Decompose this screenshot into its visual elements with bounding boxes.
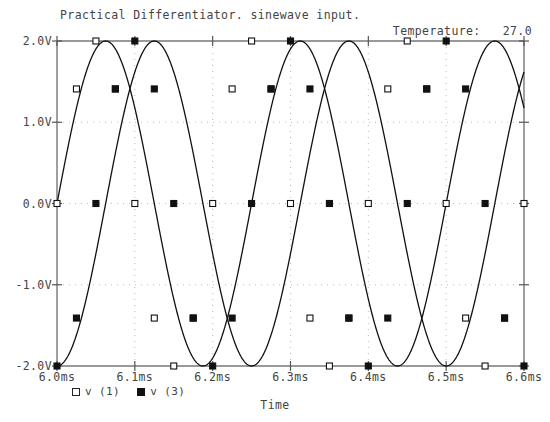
x-axis-caption: Time — [0, 398, 550, 412]
filled-square-icon — [137, 388, 145, 396]
data-point-marker — [482, 363, 488, 369]
data-point-marker — [365, 363, 371, 369]
legend-item[interactable]: v (3) — [137, 385, 185, 398]
data-point-marker — [190, 315, 196, 321]
legend: v (1)v (3) — [72, 385, 185, 398]
data-point-marker — [73, 315, 79, 321]
data-point-marker — [463, 86, 469, 92]
data-point-marker — [93, 38, 99, 44]
data-point-marker — [326, 363, 332, 369]
data-point-marker — [307, 315, 313, 321]
data-point-marker — [54, 363, 60, 369]
data-point-marker — [73, 86, 79, 92]
series-1 — [54, 38, 527, 369]
data-point-marker — [210, 363, 216, 369]
data-point-marker — [521, 363, 527, 369]
data-point-marker — [229, 315, 235, 321]
data-point-marker — [385, 315, 391, 321]
open-square-icon — [72, 388, 80, 396]
data-point-marker — [229, 86, 235, 92]
data-point-marker — [404, 38, 410, 44]
data-point-marker — [443, 38, 449, 44]
data-point-marker — [521, 201, 527, 207]
data-point-marker — [346, 315, 352, 321]
data-point-marker — [151, 315, 157, 321]
data-point-marker — [424, 86, 430, 92]
data-point-marker — [151, 86, 157, 92]
data-point-marker — [268, 86, 274, 92]
plot-canvas — [0, 0, 550, 422]
data-point-marker — [385, 86, 391, 92]
data-point-marker — [365, 201, 371, 207]
data-point-marker — [482, 201, 488, 207]
data-point-marker — [307, 86, 313, 92]
data-point-marker — [93, 201, 99, 207]
data-point-marker — [210, 201, 216, 207]
data-point-marker — [443, 201, 449, 207]
data-point-marker — [54, 201, 60, 207]
data-point-marker — [502, 315, 508, 321]
data-point-marker — [404, 201, 410, 207]
data-point-marker — [132, 201, 138, 207]
data-point-marker — [171, 363, 177, 369]
data-point-marker — [463, 315, 469, 321]
data-point-marker — [132, 38, 138, 44]
data-point-marker — [326, 201, 332, 207]
legend-label: v (1) — [85, 385, 120, 398]
data-point-marker — [112, 86, 118, 92]
spice-plot-window: Practical Differentiator. sinewave input… — [0, 0, 550, 422]
data-point-marker — [171, 201, 177, 207]
data-point-marker — [249, 38, 255, 44]
legend-item[interactable]: v (1) — [72, 385, 120, 398]
data-point-marker — [288, 38, 294, 44]
data-point-marker — [249, 201, 255, 207]
data-point-marker — [288, 201, 294, 207]
legend-label: v (3) — [150, 385, 185, 398]
